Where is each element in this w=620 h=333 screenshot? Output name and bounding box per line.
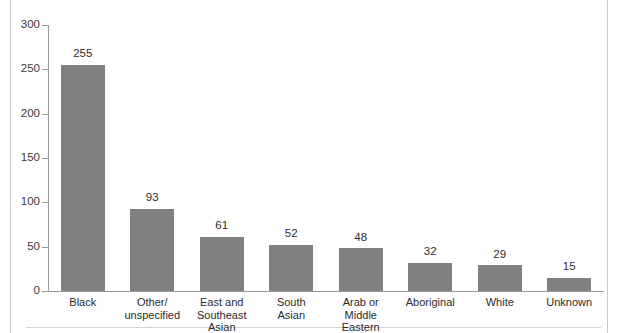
bar-rect[interactable] <box>408 263 452 291</box>
y-axis-line <box>48 25 49 292</box>
bar-value-label: 48 <box>354 232 367 244</box>
bar-rect[interactable] <box>478 265 522 291</box>
x-axis-category-label: South Asian <box>257 296 327 321</box>
x-axis-category-label: Arab or Middle Eastern <box>326 296 396 333</box>
y-axis-tick-mark <box>42 202 48 203</box>
y-axis-tick-label: 150 <box>4 152 40 164</box>
bar-rect[interactable] <box>200 237 244 291</box>
bar-value-label: 255 <box>73 48 92 60</box>
y-axis-tick-label: 100 <box>4 197 40 209</box>
bar-item[interactable]: 255 <box>61 48 105 291</box>
x-axis-category-label: Black <box>48 296 118 309</box>
x-axis-category-label: Other/ unspecified <box>118 296 188 321</box>
bar-rect[interactable] <box>547 278 591 291</box>
bar-rect[interactable] <box>269 245 313 291</box>
x-axis-category-label: White <box>465 296 535 309</box>
bar-item[interactable]: 52 <box>269 228 313 291</box>
bar-value-label: 15 <box>563 261 576 273</box>
bar-item[interactable]: 93 <box>130 192 174 291</box>
y-axis-tick-label: 300 <box>4 19 40 31</box>
x-axis-category-label: East and Southeast Asian <box>187 296 257 333</box>
bar-item[interactable]: 61 <box>200 220 244 291</box>
bar-item[interactable]: 15 <box>547 261 591 291</box>
x-axis-baseline <box>48 291 604 292</box>
bar-chart-plot: 050100150200250300 25593615248322915 Bla… <box>0 0 620 333</box>
y-axis-tick-mark <box>42 158 48 159</box>
y-axis-tick-mark <box>42 291 48 292</box>
chart-page: 050100150200250300 25593615248322915 Bla… <box>0 0 620 333</box>
bar-value-label: 52 <box>285 228 298 240</box>
bar-rect[interactable] <box>339 248 383 291</box>
x-axis-category-label: Unknown <box>535 296 605 309</box>
x-axis-category-label: Aboriginal <box>396 296 466 309</box>
bar-value-label: 29 <box>493 249 506 261</box>
bar-item[interactable]: 29 <box>478 249 522 291</box>
y-axis-tick-label: 200 <box>4 108 40 120</box>
bar-item[interactable]: 48 <box>339 232 383 291</box>
y-axis-tick-label: 250 <box>4 64 40 76</box>
bar-value-label: 61 <box>215 220 228 232</box>
y-axis-tick-label: 50 <box>4 241 40 253</box>
y-axis-tick-label: 0 <box>4 285 40 297</box>
bar-value-label: 32 <box>424 246 437 258</box>
bar-item[interactable]: 32 <box>408 246 452 291</box>
y-axis-tick-mark <box>42 25 48 26</box>
bar-value-label: 93 <box>146 192 159 204</box>
y-axis-tick-mark <box>42 69 48 70</box>
y-axis-tick-mark <box>42 114 48 115</box>
bar-rect[interactable] <box>61 65 105 291</box>
y-axis-tick-mark <box>42 247 48 248</box>
bar-rect[interactable] <box>130 209 174 291</box>
